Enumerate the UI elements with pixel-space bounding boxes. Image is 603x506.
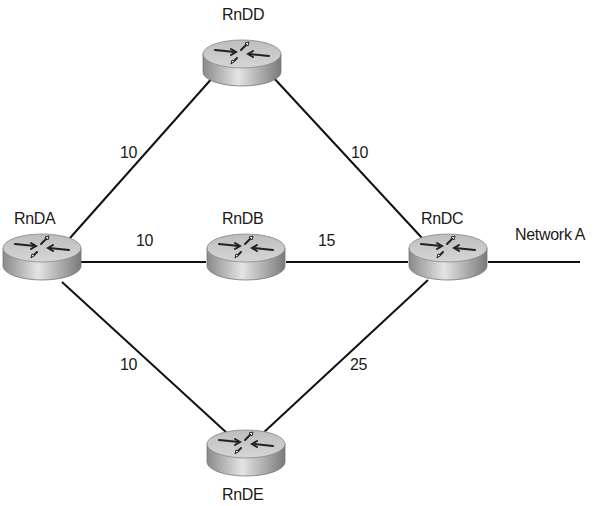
router-label-rndd: RnDD	[222, 6, 264, 24]
router-label-rnde: RnDE	[222, 486, 263, 504]
cost-label-rnda-rnde: 10	[120, 356, 137, 374]
router-icon	[1, 232, 83, 282]
router-rndb[interactable]	[205, 232, 287, 282]
cost-label-rndd-rndc: 10	[351, 144, 368, 162]
router-label-rndc: RnDC	[421, 210, 463, 228]
link-rnda-rndd	[70, 76, 214, 238]
router-rnde[interactable]	[205, 428, 287, 478]
router-icon	[201, 38, 283, 88]
link-rnda-rnde	[62, 282, 228, 434]
cost-label-rndb-rndc: 15	[318, 232, 335, 250]
router-label-rnda: RnDA	[14, 210, 55, 228]
cost-label-rnda-rndd: 10	[120, 144, 137, 162]
network-a-label: Network A	[515, 226, 585, 244]
link-rnde-rndc	[262, 280, 428, 434]
router-rndd[interactable]	[201, 38, 283, 88]
link-rndd-rndc	[272, 76, 422, 238]
router-label-rndb: RnDB	[222, 210, 263, 228]
router-icon	[407, 232, 489, 282]
router-icon	[205, 232, 287, 282]
router-rnda[interactable]	[1, 232, 83, 282]
topology-canvas	[0, 0, 603, 506]
router-rndc[interactable]	[407, 232, 489, 282]
cost-label-rnde-rndc: 25	[350, 356, 367, 374]
cost-label-rnda-rndb: 10	[136, 232, 153, 250]
router-icon	[205, 428, 287, 478]
